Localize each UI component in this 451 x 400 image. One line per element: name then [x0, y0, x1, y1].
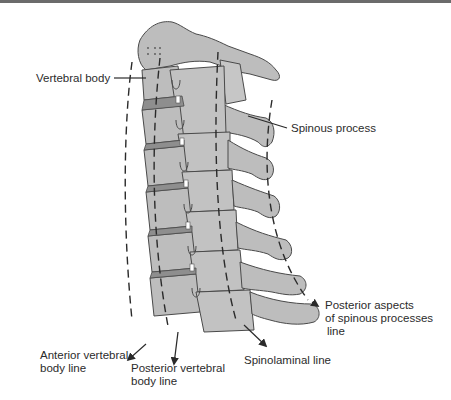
label-spinous-process: Spinous process	[291, 122, 376, 135]
label-text: Anterior vertebral	[40, 349, 128, 362]
label-text: Posterior aspects	[325, 299, 433, 312]
label-text: Posterior vertebral	[131, 362, 225, 375]
label-posterior-vertebral-body-line: Posterior vertebral body line	[131, 362, 225, 388]
label-vertebral-body: Vertebral body	[36, 72, 110, 85]
label-text: of spinous processes	[325, 312, 433, 325]
label-text: line	[325, 325, 433, 338]
label-text: Spinous process	[291, 122, 376, 134]
label-text: Spinolaminal line	[244, 354, 331, 366]
cervical-spine-illustration	[0, 0, 451, 400]
label-posterior-aspects: Posterior aspects of spinous processes l…	[325, 299, 433, 338]
label-text: body line	[131, 375, 225, 388]
anterior-vertebral-line	[125, 62, 132, 320]
label-anterior-vertebral-body-line: Anterior vertebral body line	[40, 349, 128, 375]
label-text: body line	[40, 362, 128, 375]
label-text: Vertebral body	[36, 72, 110, 84]
label-spinolaminal-line: Spinolaminal line	[244, 354, 331, 367]
